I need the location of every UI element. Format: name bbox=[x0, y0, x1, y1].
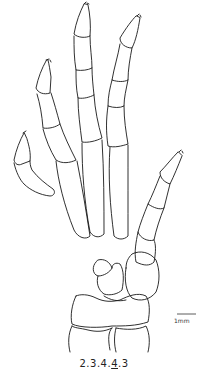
digit-4 bbox=[107, 14, 142, 239]
scale-bar-label: 1mm bbox=[174, 317, 190, 324]
digit-5 bbox=[135, 150, 183, 265]
hand-skeleton-figure: 1mm 2.3.4.4.3 bbox=[0, 0, 208, 378]
formula-digit-4-underlined: 4 bbox=[111, 358, 118, 369]
formula-digit-5: 3 bbox=[122, 358, 129, 369]
digit-1 bbox=[14, 131, 54, 196]
phalangeal-formula-caption: 2.3.4.4.3 bbox=[0, 358, 208, 369]
digit-3 bbox=[74, 2, 104, 237]
forearm-bones bbox=[69, 294, 150, 352]
carpals bbox=[93, 252, 159, 301]
formula-digit-2: 3 bbox=[90, 358, 97, 369]
